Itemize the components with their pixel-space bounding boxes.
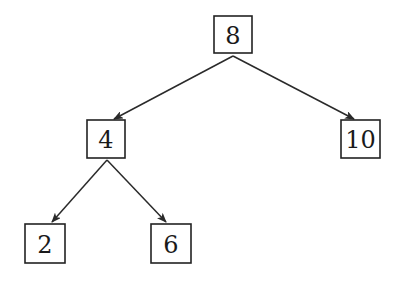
tree-diagram: 841026 xyxy=(0,0,401,282)
tree-node-4: 4 xyxy=(87,120,125,158)
edge-arrow-8-to-4 xyxy=(114,56,233,119)
edge-arrow-8-to-10 xyxy=(233,56,354,119)
edge-arrow-4-to-6 xyxy=(107,160,166,222)
node-label: 4 xyxy=(98,126,113,154)
tree-node-2: 2 xyxy=(25,224,65,263)
node-label: 8 xyxy=(225,22,240,50)
edge-arrow-4-to-2 xyxy=(52,160,107,222)
node-label: 6 xyxy=(163,231,178,259)
nodes-group: 841026 xyxy=(25,16,380,263)
tree-node-10: 10 xyxy=(341,120,380,158)
tree-node-8: 8 xyxy=(214,16,252,53)
tree-svg: 841026 xyxy=(0,0,401,282)
node-label: 10 xyxy=(345,126,376,154)
node-label: 2 xyxy=(37,231,52,259)
tree-node-6: 6 xyxy=(151,224,191,263)
